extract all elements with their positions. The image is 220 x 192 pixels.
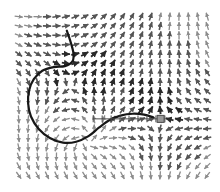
quiver-arrow — [160, 143, 161, 151]
quiver-arrow — [160, 162, 161, 170]
quiver-arrow — [28, 143, 29, 151]
quiver-arrow — [160, 59, 161, 67]
quiver-arrow — [188, 13, 189, 21]
fixed-point-marker — [157, 115, 164, 122]
quiver-arrow — [169, 31, 170, 39]
quiver-arrow — [37, 87, 38, 95]
quiver-arrow — [109, 138, 117, 139]
quiver-arrow — [150, 171, 151, 179]
quiver-arrow — [194, 128, 202, 129]
quiver-arrow — [37, 97, 38, 105]
quiver-arrow — [52, 26, 60, 27]
quiver-arrow — [160, 134, 161, 142]
quiver-arrow — [18, 125, 19, 133]
quiver-arrow — [160, 171, 161, 179]
vector-field-figure — [0, 0, 220, 192]
fixed-point-marker-layer — [157, 115, 164, 122]
quiver-arrow — [24, 16, 32, 17]
quiver-arrow — [169, 69, 170, 77]
quiver-arrow — [28, 115, 29, 123]
quiver-arrow — [37, 143, 38, 151]
quiver-arrow — [160, 106, 161, 114]
quiver-arrow — [160, 153, 161, 161]
quiver-arrow — [160, 50, 161, 58]
quiver-arrow — [28, 125, 29, 133]
quiver-arrow — [52, 44, 60, 45]
vector-field-plot — [0, 0, 220, 192]
quiver-arrow — [18, 106, 19, 114]
quiver-arrow — [37, 153, 38, 161]
quiver-arrow — [179, 50, 180, 58]
quiver-arrow — [34, 25, 42, 26]
quiver-arrow — [47, 87, 48, 95]
quiver-arrow — [103, 97, 104, 105]
quiver-arrow — [18, 115, 19, 123]
quiver-arrow — [184, 128, 192, 129]
quiver-arrow — [188, 22, 189, 30]
quiver-arrow — [150, 78, 151, 86]
quiver-arrow — [150, 162, 151, 170]
